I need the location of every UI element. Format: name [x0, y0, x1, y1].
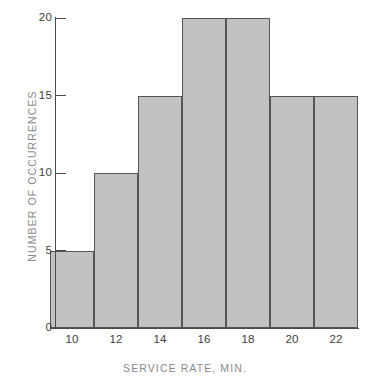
- histogram-bar: [182, 18, 226, 328]
- y-axis-tick: [55, 95, 66, 96]
- histogram-bar: [138, 96, 182, 329]
- y-axis-tick: [55, 328, 66, 329]
- x-tick-label-18: 18: [226, 334, 270, 346]
- histogram-bar: [50, 251, 94, 329]
- histogram-bar: [94, 173, 138, 328]
- y-tick-label-0: 0: [12, 322, 52, 334]
- y-axis-tick: [55, 173, 66, 174]
- y-tick-label-20: 20: [12, 12, 52, 24]
- plot-area: [50, 18, 358, 328]
- x-tick-label-16: 16: [182, 334, 226, 346]
- y-axis-tick: [55, 18, 66, 19]
- x-tick-label-12: 12: [94, 334, 138, 346]
- histogram-figure: 20 15 10 5 0 10 12 14 16 18 20 22 SERVIC…: [0, 0, 370, 388]
- x-tick-label-22: 22: [314, 334, 358, 346]
- x-axis-title: SERVICE RATE, MIN.: [0, 362, 370, 374]
- x-axis-line: [50, 328, 359, 329]
- y-axis-title: NUMBER OF OCCURRENCES: [26, 56, 38, 296]
- x-tick-label-20: 20: [270, 334, 314, 346]
- histogram-bar: [226, 18, 270, 328]
- x-tick-label-10: 10: [50, 334, 94, 346]
- x-tick-label-14: 14: [138, 334, 182, 346]
- y-axis-tick: [55, 250, 66, 251]
- histogram-bar: [314, 96, 358, 329]
- histogram-bar: [270, 96, 314, 329]
